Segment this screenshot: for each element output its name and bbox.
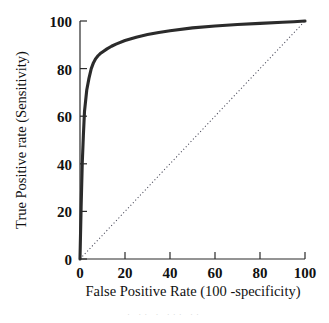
x-tick-label-60: 60: [208, 265, 223, 281]
y-tick-label-100: 100: [50, 14, 73, 30]
x-tick-label-40: 40: [163, 265, 178, 281]
roc-plot: 100 80 60 40 20 0 0 20 40 60 80 100 Fals…: [0, 0, 329, 323]
x-tick-label-80: 80: [253, 265, 268, 281]
x-tick-label-100: 100: [294, 265, 317, 281]
x-axis-title: False Positive Rate (100 -specificity): [85, 283, 300, 300]
x-tick-label-20: 20: [118, 265, 133, 281]
x-tick-labels: 0 20 40 60 80 100: [76, 265, 316, 281]
y-tick-label-0: 0: [65, 252, 73, 268]
y-tick-labels: 100 80 60 40 20 0: [50, 14, 73, 268]
y-axis-title: True Positive rate (Sensitivity): [13, 51, 30, 229]
caption-fragment: · ·· · ··· ··: [0, 309, 329, 319]
y-tick-label-40: 40: [57, 157, 72, 173]
roc-chart-figure: 100 80 60 40 20 0 0 20 40 60 80 100 Fals…: [0, 0, 329, 323]
chance-diagonal-line: [80, 21, 305, 259]
y-tick-label-60: 60: [57, 109, 72, 125]
y-tick-label-80: 80: [57, 62, 72, 78]
x-axis-group: [80, 252, 305, 259]
y-tick-label-20: 20: [57, 204, 72, 220]
x-tick-label-0: 0: [76, 265, 84, 281]
